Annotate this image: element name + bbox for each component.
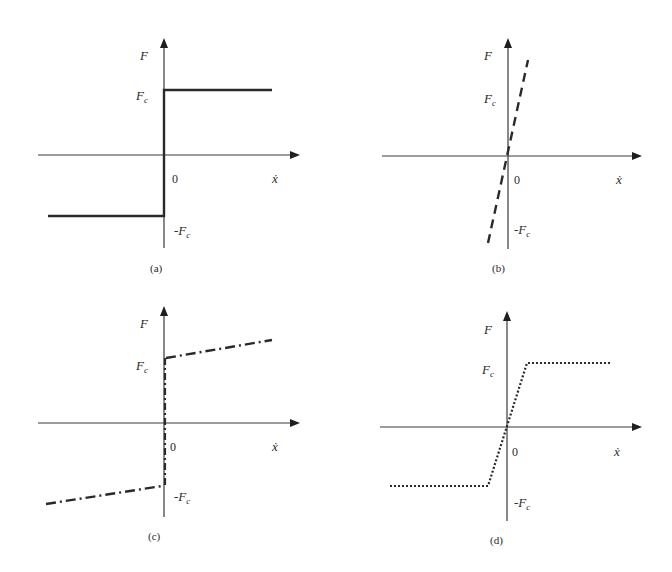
fc-label: Fc: [135, 88, 148, 105]
fc-label: Fc: [483, 91, 496, 108]
x-axis-arrow-icon: [632, 423, 642, 431]
x-axis-label: ẋ: [271, 171, 278, 186]
panel-c: F Fc 0 ẋ -Fc (c): [38, 306, 300, 543]
friction-models-figure: F Fc 0 ẋ -Fc (a) F Fc 0 ẋ -Fc (b) F Fc 0…: [0, 0, 672, 572]
fc-label: Fc: [135, 358, 148, 375]
origin-label: 0: [172, 172, 178, 186]
panel-d: F Fc 0 ẋ -Fc (d): [380, 311, 642, 547]
panel-caption: (b): [492, 262, 505, 275]
panel-a: F Fc 0 ẋ -Fc (a): [38, 38, 300, 275]
neg-fc-label: -Fc: [514, 222, 530, 239]
origin-label: 0: [170, 440, 176, 454]
lower-branch-curve: [46, 486, 162, 504]
upper-branch-curve: [166, 340, 272, 358]
y-axis-arrow-icon: [504, 38, 512, 48]
neg-fc-label: -Fc: [514, 495, 530, 512]
x-axis-label: ẋ: [613, 444, 620, 459]
y-axis-arrow-icon: [160, 306, 168, 316]
x-axis-label: ẋ: [271, 439, 278, 454]
x-axis-label: ẋ: [615, 172, 622, 187]
y-axis-arrow-icon: [503, 311, 511, 321]
panel-caption: (c): [148, 530, 161, 543]
x-axis-arrow-icon: [632, 152, 642, 160]
x-axis-arrow-icon: [290, 151, 300, 159]
neg-fc-label: -Fc: [174, 489, 190, 506]
y-axis-arrow-icon: [160, 38, 168, 48]
y-axis-label: F: [139, 316, 149, 331]
saturation-curve: [390, 363, 612, 486]
y-axis-label: F: [139, 48, 149, 63]
origin-label: 0: [512, 445, 518, 459]
y-axis-label: F: [483, 48, 493, 63]
neg-fc-label: -Fc: [174, 223, 190, 240]
y-axis-label: F: [483, 322, 493, 337]
panel-caption: (a): [150, 262, 163, 275]
fc-label: Fc: [481, 362, 494, 379]
x-axis-arrow-icon: [290, 419, 300, 427]
panel-caption: (d): [490, 534, 503, 547]
origin-label: 0: [514, 173, 520, 187]
coulomb-curve: [48, 90, 272, 216]
panel-b: F Fc 0 ẋ -Fc (b): [382, 38, 642, 275]
